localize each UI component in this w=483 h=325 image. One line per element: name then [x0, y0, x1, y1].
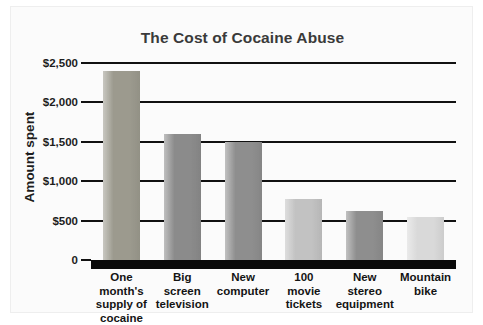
bar [103, 71, 140, 260]
x-tick-label: New stereo equipment [334, 271, 395, 312]
x-axis-labels: One month's supply of cocaineBig screen … [91, 271, 456, 317]
bar-fill [346, 211, 383, 260]
bar [225, 142, 262, 260]
x-tick-label: Big screen television [152, 271, 213, 312]
y-tick-mark [81, 62, 91, 64]
y-tick-mark [81, 220, 91, 222]
bar [346, 211, 383, 260]
y-tick-mark [81, 101, 91, 103]
y-tick-mark [81, 180, 91, 182]
plot-area: 0$500$1,000$1,500$2,000$2,500 [91, 63, 456, 260]
bars-group [91, 63, 456, 260]
bar-fill [285, 199, 322, 260]
y-tick-label: $2,500 [43, 57, 78, 69]
y-tick-label: 0 [72, 254, 78, 266]
x-tick-label: 100 movie tickets [274, 271, 335, 312]
bar-fill [103, 71, 140, 260]
chart-panel: The Cost of Cocaine Abuse Amount spent 0… [10, 6, 473, 313]
y-tick-label: $1,500 [43, 136, 78, 148]
y-tick-label: $2,000 [43, 96, 78, 108]
x-tick-label: Mountain bike [395, 271, 456, 298]
y-axis-label: Amount spent [22, 112, 37, 203]
x-tick-label: One month's supply of cocaine [91, 271, 152, 325]
y-tick-label: $500 [52, 215, 78, 227]
bar [407, 217, 444, 260]
y-tick-mark [81, 259, 91, 261]
bar [285, 199, 322, 260]
y-tick-label: $1,000 [43, 175, 78, 187]
bar [164, 134, 201, 260]
x-axis-baseline [91, 260, 456, 269]
bar-fill [225, 142, 262, 260]
chart-title: The Cost of Cocaine Abuse [11, 29, 474, 47]
bar-fill [407, 217, 444, 260]
y-tick-mark [81, 141, 91, 143]
x-tick-label: New computer [213, 271, 274, 298]
bar-fill [164, 134, 201, 260]
